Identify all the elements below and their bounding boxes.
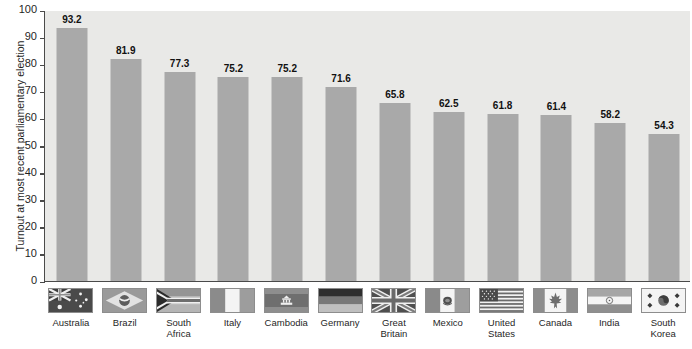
flag-south-korea-icon [641,288,686,313]
category-legend-item[interactable]: South Africa [152,288,206,339]
y-axis-tick-label: 30 [25,193,37,205]
bar[interactable] [164,72,195,281]
bar[interactable] [56,28,87,281]
plot-inner: 010203040506070809010093.281.977.375.275… [45,11,690,281]
category-label: India [582,318,636,329]
category-label: Mexico [421,318,475,329]
bar-slot: 71.6 [314,11,368,281]
category-legend-item[interactable]: Cambodia [259,288,313,329]
flag-india-icon [587,288,632,313]
y-axis-tick-label: 70 [25,84,37,96]
bar-value-label: 54.3 [654,120,673,131]
bar-slot: 75.2 [207,11,261,281]
category-legend-item[interactable]: South Korea [636,288,690,339]
bar-value-label: 75.2 [278,63,297,74]
category-label: Italy [206,318,260,329]
y-axis-tick-label: 20 [25,220,37,232]
y-axis-tickmark [40,282,45,284]
flag-mexico-icon [425,288,470,313]
flag-great-britain-icon [371,288,416,313]
category-label: United States [475,318,529,339]
bar-slot: 65.8 [368,11,422,281]
bar[interactable] [218,77,249,281]
bar-slot: 61.4 [530,11,584,281]
bar[interactable] [649,134,680,281]
y-axis-tick-label: 0 [31,274,37,286]
bar[interactable] [595,123,626,281]
flag-italy-icon [210,288,255,313]
bar-value-label: 71.6 [331,73,350,84]
plot-area: 010203040506070809010093.281.977.375.275… [44,11,690,282]
category-label: Germany [313,318,367,329]
bar-value-label: 75.2 [224,63,243,74]
y-axis-tick-label: 90 [25,30,37,42]
bar-value-label: 61.8 [493,100,512,111]
bar-slot: 58.2 [583,11,637,281]
bar[interactable] [272,77,303,281]
bar[interactable] [541,115,572,281]
category-legend-item[interactable]: Great Britain [367,288,421,339]
bar-value-label: 93.2 [62,14,81,25]
bar-value-label: 77.3 [170,58,189,69]
bar[interactable] [326,87,357,281]
category-legend-item[interactable]: Brazil [98,288,152,329]
category-axis: AustraliaBrazilSouth AfricaItalyCambodia… [44,288,690,349]
category-legend-item[interactable]: Australia [44,288,98,329]
bar-value-label: 65.8 [385,89,404,100]
bar[interactable] [110,59,141,281]
y-axis-tick-label: 50 [25,139,37,151]
flag-australia-icon [48,288,93,313]
category-label: Great Britain [367,318,421,339]
bar[interactable] [487,114,518,281]
bar-slot: 77.3 [153,11,207,281]
bar-value-label: 62.5 [439,98,458,109]
bar-slot: 61.8 [476,11,530,281]
bar-slot: 54.3 [637,11,691,281]
bar-value-label: 61.4 [547,101,566,112]
category-label: Australia [44,318,98,329]
category-legend-item[interactable]: Italy [206,288,260,329]
category-legend-item[interactable]: India [582,288,636,329]
bar-slot: 62.5 [422,11,476,281]
bar-slot: 81.9 [99,11,153,281]
bar[interactable] [379,103,410,281]
y-axis-tick-label: 40 [25,166,37,178]
flag-united-states-icon [479,288,524,313]
category-legend-item[interactable]: United States [475,288,529,339]
y-axis-tick-label: 10 [25,247,37,259]
category-legend-item[interactable]: Germany [313,288,367,329]
flag-canada-icon [533,288,578,313]
bar-chart: Turnout at most recent parliamentary ele… [0,0,692,349]
flag-south-africa-icon [156,288,201,313]
bar-slot: 75.2 [260,11,314,281]
flag-brazil-icon [102,288,147,313]
category-legend-item[interactable]: Canada [529,288,583,329]
category-label: South Korea [636,318,690,339]
y-axis-tick-label: 80 [25,57,37,69]
flag-germany-icon [318,288,363,313]
category-label: Canada [529,318,583,329]
category-label: South Africa [152,318,206,339]
category-label: Cambodia [259,318,313,329]
y-axis-tick-label: 100 [19,3,37,15]
bar-slot: 93.2 [45,11,99,281]
bar-value-label: 58.2 [601,109,620,120]
category-legend-item[interactable]: Mexico [421,288,475,329]
bar[interactable] [433,112,464,281]
flag-cambodia-icon [264,288,309,313]
bar-value-label: 81.9 [116,45,135,56]
y-axis-tick-label: 60 [25,111,37,123]
category-label: Brazil [98,318,152,329]
